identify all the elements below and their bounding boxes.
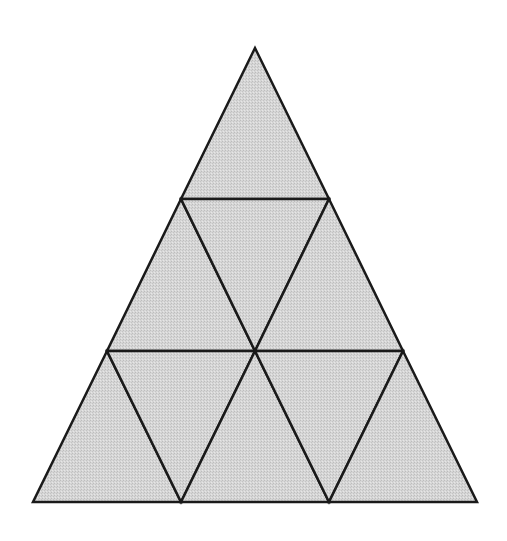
triangle-diagram (0, 0, 507, 541)
small-triangle-r1-t1 (181, 48, 329, 199)
small-triangles (33, 48, 477, 502)
